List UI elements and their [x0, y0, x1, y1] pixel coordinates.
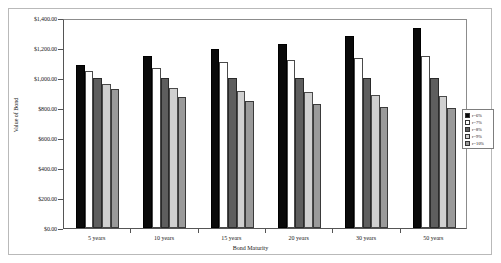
bar[interactable] [228, 78, 237, 228]
bar-group [333, 20, 400, 228]
bar[interactable] [152, 68, 161, 229]
bar[interactable] [421, 56, 430, 229]
bar[interactable] [102, 84, 111, 228]
bar[interactable] [76, 65, 85, 228]
x-axis-tick-label: 10 years [154, 235, 174, 242]
legend-item[interactable]: r=6% [465, 112, 492, 118]
bar[interactable] [245, 101, 254, 228]
legend-swatch-icon [465, 113, 470, 118]
y-axis-tick-label: $1,200.00 [34, 46, 57, 52]
bar[interactable] [439, 96, 448, 228]
y-axis-tick-label: $0.00 [44, 226, 57, 232]
bar[interactable] [447, 108, 456, 228]
y-axis-tick [58, 229, 63, 230]
legend-swatch-icon [465, 141, 470, 146]
x-axis-tick [130, 229, 131, 233]
bar[interactable] [430, 78, 439, 228]
bar-group [64, 20, 131, 228]
legend: r=6%r=7%r=8%r=9%r=10% [462, 109, 494, 149]
legend-item[interactable]: r=9% [465, 133, 492, 139]
bar[interactable] [413, 28, 422, 228]
y-axis-tick-label: $1,000.00 [34, 76, 57, 82]
bar-group [199, 20, 266, 228]
legend-item-label: r=6% [472, 113, 482, 118]
bar[interactable] [111, 89, 120, 228]
bar-group [401, 20, 468, 228]
bar[interactable] [143, 56, 152, 229]
x-axis-tick [400, 229, 401, 233]
bar[interactable] [85, 71, 94, 228]
bar[interactable] [380, 107, 389, 229]
bar-group [131, 20, 198, 228]
legend-item[interactable]: r=7% [465, 119, 492, 125]
legend-item-label: r=8% [472, 127, 482, 132]
x-axis-tick-label: 20 years [289, 235, 309, 242]
y-axis-labels: $0.00$200.00$400.00$600.00$800.00$1,000.… [0, 0, 63, 263]
x-axis-tick [265, 229, 266, 233]
bar[interactable] [219, 62, 228, 228]
bar[interactable] [178, 97, 187, 228]
x-axis-tick-label: 50 years [423, 235, 443, 242]
chart-container: $0.00$200.00$400.00$600.00$800.00$1,000.… [0, 0, 501, 263]
bar[interactable] [345, 36, 354, 228]
bars-layer [64, 20, 466, 228]
bar[interactable] [278, 44, 287, 229]
legend-item-label: r=10% [472, 141, 484, 146]
y-axis-tick-label: $800.00 [38, 106, 57, 112]
bar[interactable] [304, 92, 313, 228]
legend-item[interactable]: r=8% [465, 126, 492, 132]
legend-swatch-icon [465, 127, 470, 132]
bar[interactable] [237, 91, 246, 228]
x-axis-tick-label: 30 years [356, 235, 376, 242]
legend-item-label: r=9% [472, 134, 482, 139]
bar[interactable] [363, 78, 372, 228]
legend-swatch-icon [465, 134, 470, 139]
bar[interactable] [93, 78, 102, 228]
bar[interactable] [169, 88, 178, 228]
bar-group [266, 20, 333, 228]
bar[interactable] [313, 104, 322, 228]
y-axis-tick-label: $400.00 [38, 166, 57, 172]
bar[interactable] [354, 58, 363, 228]
plot-area [63, 19, 467, 229]
legend-item-label: r=7% [472, 120, 482, 125]
legend-item[interactable]: r=10% [465, 140, 492, 146]
y-axis-tick-label: $600.00 [38, 136, 57, 142]
x-axis-tick-label: 5 years [88, 235, 105, 242]
x-axis-tick [198, 229, 199, 233]
bar[interactable] [295, 78, 304, 228]
y-axis-tick-label: $200.00 [38, 196, 57, 202]
bar[interactable] [371, 95, 380, 229]
y-axis-tick-label: $1,400.00 [34, 16, 57, 22]
x-axis-tick-label: 15 years [221, 235, 241, 242]
bar[interactable] [211, 49, 220, 228]
bar[interactable] [287, 60, 296, 228]
legend-swatch-icon [465, 120, 470, 125]
bar[interactable] [161, 78, 170, 228]
x-axis-title: Bond Maturity [0, 245, 501, 251]
x-axis-tick [332, 229, 333, 233]
y-axis-title: Value of Bond [13, 80, 19, 150]
